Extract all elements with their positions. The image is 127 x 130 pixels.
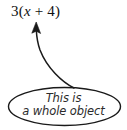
annotation-text-line-2: a whole object [0, 104, 127, 118]
curved-arrow-shaft [36, 30, 74, 88]
figure-canvas: 3(x + 4) This is a whole object [0, 0, 127, 130]
annotation-text-line-1: This is [0, 91, 127, 105]
